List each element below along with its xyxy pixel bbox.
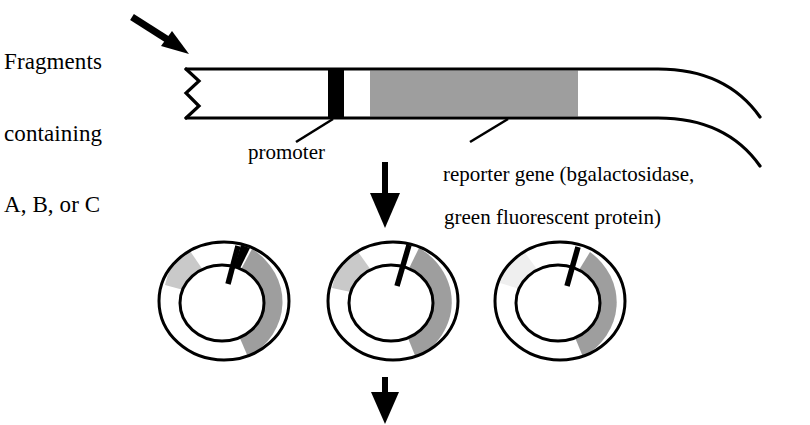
diagram-graphics xyxy=(0,0,810,425)
diagram-canvas: Fragments containing A, B, or C promoter… xyxy=(0,0,810,425)
plasmid-3 xyxy=(0,0,810,425)
